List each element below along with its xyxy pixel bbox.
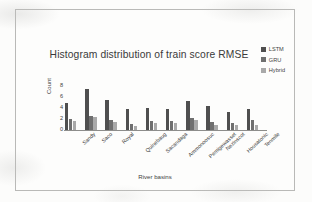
bar-gru[interactable] bbox=[231, 123, 234, 130]
bar-group bbox=[64, 86, 84, 130]
y-tick-label: 8 bbox=[60, 83, 63, 89]
screenshot-page: Histogram distribution of train score RM… bbox=[0, 0, 312, 202]
bar-lstm[interactable] bbox=[227, 112, 230, 130]
y-tick-label: 0 bbox=[60, 127, 63, 133]
bar-lstm[interactable] bbox=[126, 109, 129, 130]
bar-group bbox=[104, 86, 124, 130]
bar-group bbox=[165, 86, 185, 130]
bar-hybrid[interactable] bbox=[154, 123, 157, 130]
bar-lstm[interactable] bbox=[85, 89, 88, 130]
bar-group bbox=[84, 86, 104, 130]
x-tick-label: Saco bbox=[100, 131, 113, 144]
bar-gru[interactable] bbox=[210, 122, 213, 130]
bar-hybrid[interactable] bbox=[194, 120, 197, 130]
legend-swatch-icon bbox=[261, 57, 266, 62]
x-axis-tick-labels: SandySacoRoyalQuinebaugSacandagaAmmonoos… bbox=[64, 131, 266, 171]
bar-lstm[interactable] bbox=[166, 109, 169, 130]
bar-hybrid[interactable] bbox=[134, 126, 137, 130]
bar-gru[interactable] bbox=[190, 118, 193, 130]
bar-gru[interactable] bbox=[130, 124, 133, 130]
legend-item-hybrid[interactable]: Hybrid bbox=[261, 67, 285, 73]
x-tick-label: Sacandaga bbox=[165, 131, 189, 154]
bar-gru[interactable] bbox=[69, 119, 72, 130]
bar-group bbox=[185, 86, 205, 130]
bar-hybrid[interactable] bbox=[93, 117, 96, 130]
bar-lstm[interactable] bbox=[247, 109, 250, 130]
bar-hybrid[interactable] bbox=[113, 122, 116, 130]
bar-groups bbox=[64, 86, 266, 130]
bar-hybrid[interactable] bbox=[214, 125, 217, 131]
y-tick-label: 6 bbox=[60, 94, 63, 100]
legend-swatch-icon bbox=[261, 47, 266, 52]
legend-swatch-icon bbox=[261, 68, 266, 73]
plot-area bbox=[64, 86, 266, 130]
bar-group bbox=[226, 86, 246, 130]
chart-title: Histogram distribution of train score RM… bbox=[34, 49, 264, 60]
bar-hybrid[interactable] bbox=[235, 125, 238, 130]
bar-hybrid[interactable] bbox=[73, 121, 76, 130]
bar-lstm[interactable] bbox=[146, 108, 149, 130]
legend-item-lstm[interactable]: LSTM bbox=[261, 46, 285, 52]
legend-label: LSTM bbox=[269, 46, 284, 52]
chart-frame: Histogram distribution of train score RM… bbox=[15, 9, 295, 191]
bar-lstm[interactable] bbox=[105, 100, 108, 130]
legend-item-gru[interactable]: GRU bbox=[261, 57, 285, 63]
bar-gru[interactable] bbox=[150, 121, 153, 130]
bar-group bbox=[125, 86, 145, 130]
bar-gru[interactable] bbox=[109, 120, 112, 130]
bar-group bbox=[205, 86, 225, 130]
bar-group bbox=[145, 86, 165, 130]
bar-lstm[interactable] bbox=[65, 103, 68, 131]
bar-hybrid[interactable] bbox=[255, 125, 258, 131]
bar-group bbox=[246, 86, 266, 130]
bar-hybrid[interactable] bbox=[174, 123, 177, 130]
legend-label: Hybrid bbox=[269, 67, 285, 73]
y-tick-label: 4 bbox=[60, 105, 63, 111]
bar-gru[interactable] bbox=[251, 120, 254, 130]
chart-legend: LSTMGRUHybrid bbox=[261, 46, 285, 73]
y-axis-ticks: 02468 bbox=[54, 84, 63, 132]
legend-label: GRU bbox=[269, 57, 281, 63]
bar-gru[interactable] bbox=[89, 116, 92, 130]
y-axis-title: Count bbox=[46, 78, 52, 94]
y-tick-label: 2 bbox=[60, 116, 63, 122]
x-tick-label: Royal bbox=[121, 131, 135, 145]
x-tick-label: Sandy bbox=[81, 131, 96, 146]
bar-lstm[interactable] bbox=[206, 106, 209, 130]
x-axis-title: River basins bbox=[16, 173, 294, 180]
bar-gru[interactable] bbox=[170, 121, 173, 130]
bar-lstm[interactable] bbox=[186, 101, 189, 130]
